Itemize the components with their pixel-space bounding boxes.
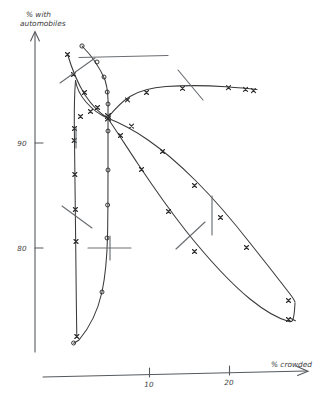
- error-bar-diagonal-lower-right: [176, 222, 205, 249]
- marker-x: [181, 86, 185, 90]
- y-tick-label-80: 80: [17, 244, 27, 253]
- marker-x: [66, 53, 70, 57]
- marker-x: [219, 216, 223, 220]
- x-axis-label: % crowded: [271, 360, 312, 369]
- marker-x: [287, 299, 291, 303]
- x-tick-label-10: 10: [144, 380, 154, 389]
- series-lower-descending: [108, 118, 296, 322]
- marker-x: [79, 115, 83, 119]
- marker-x: [96, 106, 100, 110]
- error-bar-diagonal-upper-right: [178, 70, 203, 100]
- marker-x: [140, 168, 144, 172]
- marker-x: [245, 246, 249, 250]
- marker-x: [130, 124, 134, 128]
- x-axis: [43, 366, 308, 377]
- y-axis-label-line2: automobiles: [20, 19, 66, 28]
- marker-group-x: [66, 53, 291, 339]
- x-axis-line: [43, 371, 306, 377]
- curve-lower-descending: [108, 118, 296, 322]
- y-axis-label-line1: % with: [26, 10, 51, 19]
- series-middle-descending: [108, 118, 296, 302]
- x-tick-label-20: 20: [224, 378, 234, 387]
- marker-x: [227, 86, 231, 90]
- marker-x: [89, 110, 93, 114]
- error-bar-diagonal-upper-left: [60, 58, 95, 83]
- marker-x: [167, 210, 171, 214]
- error-bar-diagonal-lower-left: [62, 206, 92, 228]
- marker-x: [193, 250, 197, 254]
- marker-x: [145, 91, 149, 95]
- marker-x: [193, 184, 197, 188]
- y-tick-label-90: 90: [17, 139, 27, 148]
- error-bar-horizontal-top: [79, 56, 168, 58]
- chart-figure: % with automobiles % crowded 90 80 10 20: [0, 0, 336, 410]
- chart-svg: % with automobiles % crowded 90 80 10 20: [0, 0, 336, 410]
- y-axis: [31, 32, 43, 353]
- curve-middle-descending: [108, 118, 296, 302]
